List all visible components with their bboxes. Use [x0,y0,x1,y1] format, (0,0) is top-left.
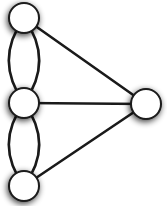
edge-middle-right-5 [24,103,146,104]
graph-diagram [0,0,167,206]
node-bottom [9,171,39,201]
edge-bottom-right-6 [24,104,146,186]
node-top [9,3,39,33]
edge-top-right-4 [24,18,146,104]
node-middle [9,88,39,118]
node-right [131,89,161,119]
